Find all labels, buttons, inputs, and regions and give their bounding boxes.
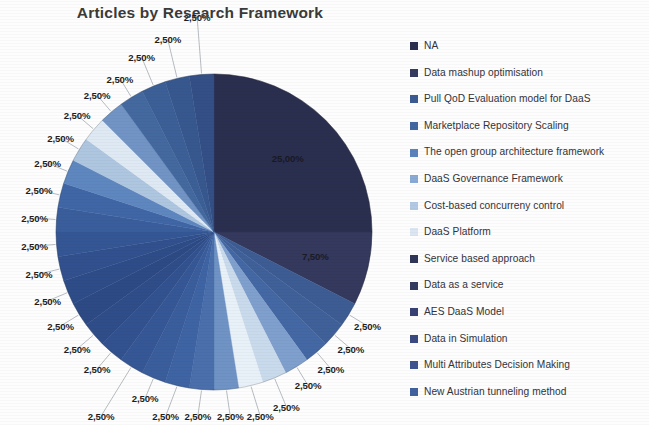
legend-item-label: Cost-based concurreny control [424, 193, 564, 220]
legend-swatch-icon [410, 361, 418, 369]
legend-item-label: DaaS Platform [424, 219, 491, 246]
pie-data-label: 2,50% [64, 110, 91, 121]
pie-data-label: 2,50% [318, 363, 345, 374]
pie-data-label: 2,50% [247, 411, 274, 422]
pie-data-label: 2,50% [154, 34, 181, 45]
legend-item-label: Service based approach [424, 246, 535, 273]
legend-swatch-icon [410, 95, 418, 103]
pie-data-label: 7,50% [302, 251, 329, 262]
legend-swatch-icon [410, 149, 418, 157]
pie-data-label: 2,50% [21, 212, 48, 223]
chart-legend: NAData mashup optimisationPull QoD Evalu… [410, 33, 649, 405]
pie-data-label: 25,00% [272, 153, 304, 164]
pie-data-label: 2,50% [107, 73, 134, 84]
legend-swatch-icon [410, 202, 418, 210]
pie-data-label: 2,50% [184, 411, 211, 422]
legend-item[interactable]: DaaS Governance Framework [410, 166, 649, 193]
pie-data-label: 2,50% [21, 241, 48, 252]
pie-data-label: 2,50% [295, 380, 322, 391]
legend-item[interactable]: NA [410, 33, 649, 60]
pie-data-label: 2,50% [88, 411, 115, 422]
legend-item[interactable]: Data mashup optimisation [410, 60, 649, 87]
legend-swatch-icon [410, 308, 418, 316]
legend-item[interactable]: Service based approach [410, 246, 649, 273]
legend-swatch-icon [410, 175, 418, 183]
legend-swatch-icon [410, 42, 418, 50]
pie-data-label: 2,50% [217, 411, 244, 422]
pie-data-label: 2,50% [132, 393, 159, 404]
legend-item[interactable]: Pull QoD Evaluation model for DaaS [410, 86, 649, 113]
legend-swatch-icon [410, 335, 418, 343]
pie-data-label: 2,50% [128, 52, 155, 63]
legend-item-label: Data as a service [424, 272, 504, 299]
pie-data-label: 2,50% [84, 90, 111, 101]
pie-data-label: 2,50% [338, 343, 365, 354]
legend-item[interactable]: AES DaaS Model [410, 299, 649, 326]
pie-svg [0, 0, 400, 425]
pie-chart-figure: Articles by Research Framework 25,00%7,5… [0, 0, 649, 425]
label-leader-line [168, 40, 177, 78]
legend-item-label: Multi Attributes Decision Making [424, 352, 570, 379]
pie-data-label: 2,50% [34, 158, 61, 169]
legend-item[interactable]: Data as a service [410, 272, 649, 299]
legend-item-label: AES DaaS Model [424, 299, 504, 326]
pie-data-label: 2,50% [34, 295, 61, 306]
pie-data-label: 2,50% [64, 343, 91, 354]
legend-swatch-icon [410, 228, 418, 236]
legend-item[interactable]: Multi Attributes Decision Making [410, 352, 649, 379]
legend-item[interactable]: DaaS Platform [410, 219, 649, 246]
legend-item-label: Data in Simulation [424, 326, 508, 353]
legend-swatch-icon [410, 69, 418, 77]
pie-data-label: 2,50% [47, 132, 74, 143]
pie-data-label: 2,50% [152, 411, 179, 422]
legend-item[interactable]: Marketplace Repository Scaling [410, 113, 649, 140]
pie-plot-area: 25,00%7,50%2,50%2,50%2,50%2,50%2,50%2,50… [0, 0, 400, 425]
legend-item-label: Data mashup optimisation [424, 60, 543, 87]
pie-data-label: 2,50% [273, 401, 300, 412]
legend-swatch-icon [410, 122, 418, 130]
legend-item[interactable]: Cost-based concurreny control [410, 193, 649, 220]
pie-data-label: 2,50% [354, 321, 381, 332]
legend-item-label: Marketplace Repository Scaling [424, 113, 569, 140]
pie-data-label: 2,50% [184, 11, 211, 22]
pie-data-label: 2,50% [84, 363, 111, 374]
legend-swatch-icon [410, 255, 418, 263]
legend-item[interactable]: Data in Simulation [410, 326, 649, 353]
legend-item-label: Pull QoD Evaluation model for DaaS [424, 86, 590, 113]
label-leader-line [197, 17, 201, 74]
legend-item-label: The open group architecture framework [424, 139, 604, 166]
pie-data-label: 2,50% [26, 269, 53, 280]
pie-data-label: 2,50% [47, 321, 74, 332]
legend-item-label: NA [424, 33, 438, 60]
legend-swatch-icon [410, 282, 418, 290]
legend-item[interactable]: The open group architecture framework [410, 139, 649, 166]
legend-swatch-icon [410, 388, 418, 396]
legend-item-label: New Austrian tunneling method [424, 379, 566, 406]
legend-item-label: DaaS Governance Framework [424, 166, 563, 193]
label-leader-line [101, 368, 131, 416]
pie-data-label: 2,50% [26, 184, 53, 195]
legend-item[interactable]: New Austrian tunneling method [410, 379, 649, 406]
